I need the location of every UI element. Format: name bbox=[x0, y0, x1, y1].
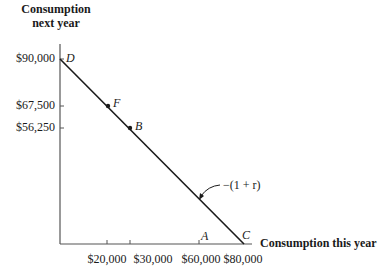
point-label-f: F bbox=[113, 96, 120, 111]
slope-arrow bbox=[201, 185, 220, 196]
budget-line bbox=[60, 59, 244, 244]
x-tick-label-60000: $60,000 bbox=[182, 252, 221, 267]
y-tick-label-67500: $67,500 bbox=[16, 98, 55, 113]
point-label-b: B bbox=[135, 119, 142, 134]
x-axis-title: Consumption this year bbox=[260, 236, 377, 251]
x-tick-label-20000: $20,000 bbox=[88, 252, 127, 267]
point-label-d: D bbox=[66, 51, 75, 66]
y-tick-label-56250: $56,250 bbox=[16, 120, 55, 135]
point-b bbox=[128, 126, 132, 130]
x-tick-label-30000: $30,000 bbox=[134, 252, 173, 267]
point-label-a: A bbox=[201, 229, 208, 244]
x-tick-label-80000: $80,000 bbox=[224, 252, 263, 267]
y-tick-label-90000: $90,000 bbox=[16, 51, 55, 66]
point-f bbox=[106, 104, 110, 108]
slope-annotation: −(1 + r) bbox=[223, 178, 261, 193]
point-label-c: C bbox=[242, 228, 250, 243]
arrow-head-icon bbox=[199, 193, 204, 200]
